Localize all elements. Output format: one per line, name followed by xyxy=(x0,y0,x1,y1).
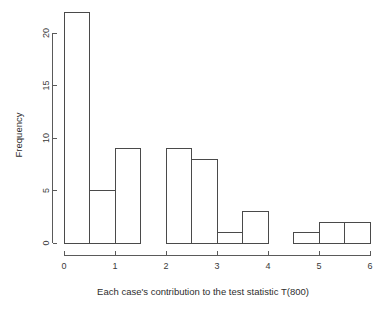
y-axis-title: Frequency xyxy=(13,112,24,157)
y-axis-tick-label: 15 xyxy=(41,80,51,90)
y-axis-tick-label: 20 xyxy=(41,28,51,38)
x-axis-tick-label: 6 xyxy=(367,261,372,271)
x-axis-tick-label: 5 xyxy=(316,261,321,271)
y-axis-tick-label: 0 xyxy=(41,240,51,245)
x-axis-tick-label: 4 xyxy=(265,261,270,271)
histogram-figure: 05101520 0123456 Each case's contributio… xyxy=(0,0,383,311)
x-axis-tick-label: 2 xyxy=(163,261,168,271)
histogram-canvas: 05101520 0123456 Each case's contributio… xyxy=(0,0,383,311)
x-axis-tick-label: 0 xyxy=(61,261,66,271)
y-axis-tick-label: 5 xyxy=(41,188,51,193)
x-axis-tick-label: 3 xyxy=(214,261,219,271)
x-axis-title: Each case's contribution to the test sta… xyxy=(97,286,309,297)
x-axis-tick-label: 1 xyxy=(112,261,117,271)
y-axis-tick-label: 10 xyxy=(41,133,51,143)
